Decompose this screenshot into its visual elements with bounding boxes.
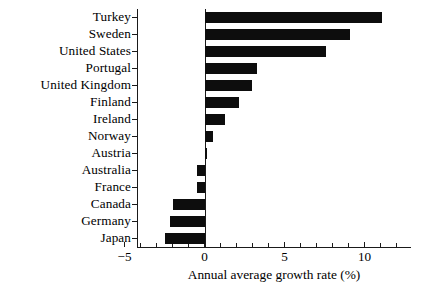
bar: [170, 216, 204, 227]
bar: [205, 12, 383, 23]
bar: [197, 182, 205, 193]
bar: [165, 233, 205, 244]
x-axis-tick-label: 10: [358, 249, 371, 264]
bar-chart: TurkeySwedenUnited StatesPortugalUnited …: [0, 0, 425, 299]
bar: [205, 131, 214, 142]
x-axis-tick-label: 5: [281, 249, 288, 264]
bar: [205, 148, 207, 159]
x-axis-tick-label: 0: [201, 249, 208, 264]
bar: [205, 63, 258, 74]
bar: [205, 80, 252, 91]
bar: [173, 199, 204, 210]
bar: [205, 46, 327, 57]
x-axis-tick-label: −5: [118, 249, 132, 264]
bar: [205, 97, 239, 108]
x-axis-title: Annual average growth rate (%): [137, 267, 411, 283]
bar: [205, 29, 351, 40]
bar: [197, 165, 204, 176]
bar: [205, 114, 225, 125]
